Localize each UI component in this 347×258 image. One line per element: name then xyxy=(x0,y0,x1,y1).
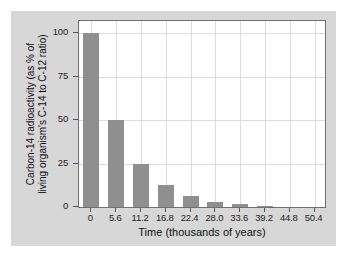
gridline-vertical xyxy=(166,21,167,207)
gridline-vertical xyxy=(191,21,192,207)
x-axis-title: Time (thousands of years) xyxy=(78,226,326,238)
plot-area xyxy=(78,20,326,208)
bar xyxy=(158,185,174,207)
gridline-vertical xyxy=(215,21,216,207)
bar xyxy=(232,204,248,207)
gridline-vertical xyxy=(265,21,266,207)
y-axis-tick-label: 50 xyxy=(38,113,68,124)
y-axis-tick-label: 100 xyxy=(38,26,68,37)
gridline-horizontal xyxy=(79,77,325,78)
bar xyxy=(207,202,223,207)
bar xyxy=(183,196,199,207)
bar xyxy=(257,206,273,207)
gridline-horizontal xyxy=(79,33,325,34)
bar xyxy=(133,164,149,207)
gridline-vertical xyxy=(290,21,291,207)
x-axis-tick-label: 50.4 xyxy=(294,212,334,223)
y-axis-tick-label: 25 xyxy=(38,157,68,168)
y-axis-tick-label: 0 xyxy=(38,200,68,211)
bar xyxy=(108,120,124,207)
gridline-vertical xyxy=(240,21,241,207)
bar xyxy=(83,33,99,207)
gridline-vertical xyxy=(315,21,316,207)
y-axis-title-line-1: Carbon-14 radioactivity (as % of xyxy=(25,20,37,208)
y-axis-tick-label: 75 xyxy=(38,70,68,81)
figure-panel: Carbon-14 radioactivity (as % of living … xyxy=(11,11,336,246)
